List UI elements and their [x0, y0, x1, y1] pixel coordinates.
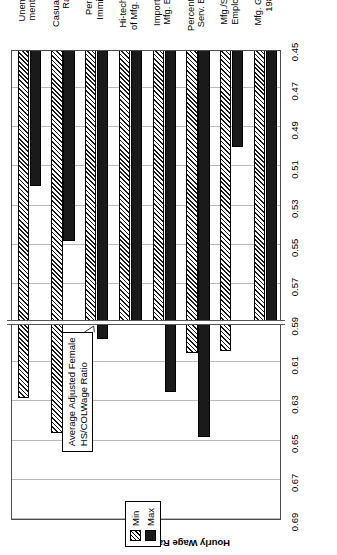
axis-tick-label: 0.55: [289, 235, 300, 258]
axis-tick-label: 0.51: [289, 156, 300, 179]
reference-line-annotation: Average Adjusted Female HS/COLWage Ratio: [62, 332, 93, 453]
axis-tick-label: 0.57: [289, 274, 300, 297]
callout-leader-line-icon: [11, 50, 281, 520]
axis-tick-label: 0.61: [289, 352, 300, 375]
category-label: Casualization Rate: [51, 0, 72, 44]
axis-tick-label: 0.59: [289, 313, 300, 336]
axis-tick-label: 0.65: [289, 430, 300, 453]
axis-tick-label: 0.45: [289, 39, 300, 62]
axis-tick-label: 0.49: [289, 117, 300, 140]
chart-page: Min Max Hourly Wage Ratio 0.690.670.650.…: [0, 0, 337, 555]
category-label: Mfg./Service Employment: [219, 0, 240, 44]
category-label: Import Share Mfg. Estabs.: [152, 0, 173, 44]
axis-tick-label: 0.67: [289, 470, 300, 493]
axis-tick-label: 0.47: [289, 78, 300, 101]
legend-swatch-min-icon: [130, 530, 141, 541]
axis-tick-label: 0.53: [289, 195, 300, 218]
plot-wrapper: 0.690.670.650.630.610.590.570.550.530.51…: [11, 50, 281, 520]
rotated-figure: Min Max Hourly Wage Ratio 0.690.670.650.…: [0, 0, 337, 555]
category-label: Hi-tech Share of Mfg. Estabs.: [118, 0, 139, 44]
category-label: Percent Immigrant: [84, 0, 105, 44]
category-label: Percent Hi-tech Serv. Employ.: [186, 0, 207, 44]
legend-swatch-max-icon: [145, 530, 156, 541]
category-label: Unemploy- ment Rate: [17, 0, 38, 44]
axis-tick-label: 0.69: [289, 509, 300, 532]
category-label: Mfg. Growth, 1980s: [253, 0, 274, 44]
axis-tick-label: 0.63: [289, 391, 300, 414]
